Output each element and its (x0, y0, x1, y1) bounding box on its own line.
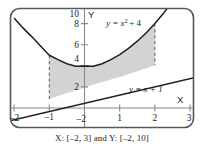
graph-plot: 10 8 6 4 2 –2 –2 –1 1 2 3 Y X y = x2+ 4 … (0, 0, 204, 153)
y-tick-label: 8 (74, 19, 79, 29)
y-tick-label: 10 (70, 9, 80, 19)
figure-container: 10 8 6 4 2 –2 –2 –1 1 2 3 Y X y = x2+ 4 … (0, 0, 204, 153)
y-tick-label: –2 (76, 114, 87, 124)
y-tick-label: 4 (74, 54, 79, 64)
x-tick-label: –2 (9, 113, 20, 123)
y-axis-label: Y (88, 9, 95, 20)
svg-text:y = x2+ 4: y = x2+ 4 (105, 17, 142, 29)
x-tick-label: 1 (117, 113, 122, 123)
parabola-label-tail: + 4 (129, 18, 141, 28)
parabola-label-main: y = x (105, 18, 125, 28)
parabola-label-exponent: 2 (125, 17, 128, 24)
x-tick-label: –1 (44, 112, 55, 122)
x-axis-label: X (177, 94, 184, 105)
x-tick-label: 3 (187, 113, 192, 123)
y-tick-label: 2 (74, 82, 79, 92)
y-tick-label: 6 (74, 40, 79, 50)
line-equation-label: y = x + 1 (128, 84, 163, 94)
x-tick-label: 2 (153, 113, 158, 123)
figure-caption: X: [–2, 3] and Y: [–2, 10] (0, 133, 204, 143)
parabola-equation-label: y = x2+ 4 (105, 17, 142, 29)
